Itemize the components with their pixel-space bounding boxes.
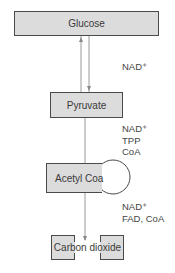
- node-label: Pyruvate: [67, 100, 106, 111]
- node-pyruvate: Pyruvate: [50, 92, 123, 118]
- connectors: [0, 0, 175, 273]
- cofactor-label-step3: NAD⁺ FAD, CoA: [122, 201, 164, 224]
- node-label: Carbon dioxide: [51, 235, 124, 260]
- arrow-down-icon: [87, 86, 91, 91]
- node-glucose: Glucose: [14, 11, 159, 36]
- cofactor-fad-coa: FAD, CoA: [122, 213, 164, 225]
- cofactor-nad: NAD⁺: [122, 123, 147, 135]
- node-acetyl-coa: Acetyl Coa: [46, 163, 102, 193]
- arrow-up-icon: [79, 37, 83, 42]
- cofactor-coa: CoA: [122, 146, 147, 158]
- cofactor-nad: NAD⁺: [122, 201, 164, 213]
- node-carbon-dioxide: Carbon dioxide: [51, 235, 124, 260]
- node-label: Acetyl Coa: [55, 173, 103, 184]
- cofactor-nad: NAD⁺: [122, 61, 147, 73]
- cofactor-label-step1: NAD⁺: [122, 61, 147, 73]
- cofactor-tpp: TPP: [122, 135, 147, 147]
- node-label: Glucose: [68, 18, 105, 29]
- cofactor-label-step2: NAD⁺ TPP CoA: [122, 123, 147, 158]
